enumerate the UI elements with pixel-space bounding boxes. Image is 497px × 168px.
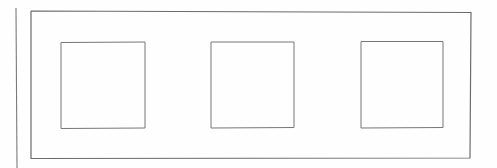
left-edge-line <box>16 8 17 168</box>
panel-2 <box>211 42 294 128</box>
line-drawing-svg <box>0 0 497 168</box>
outer-frame <box>31 11 471 159</box>
panel-3 <box>361 42 443 129</box>
drawing-canvas <box>0 0 497 168</box>
panel-1 <box>61 42 145 129</box>
